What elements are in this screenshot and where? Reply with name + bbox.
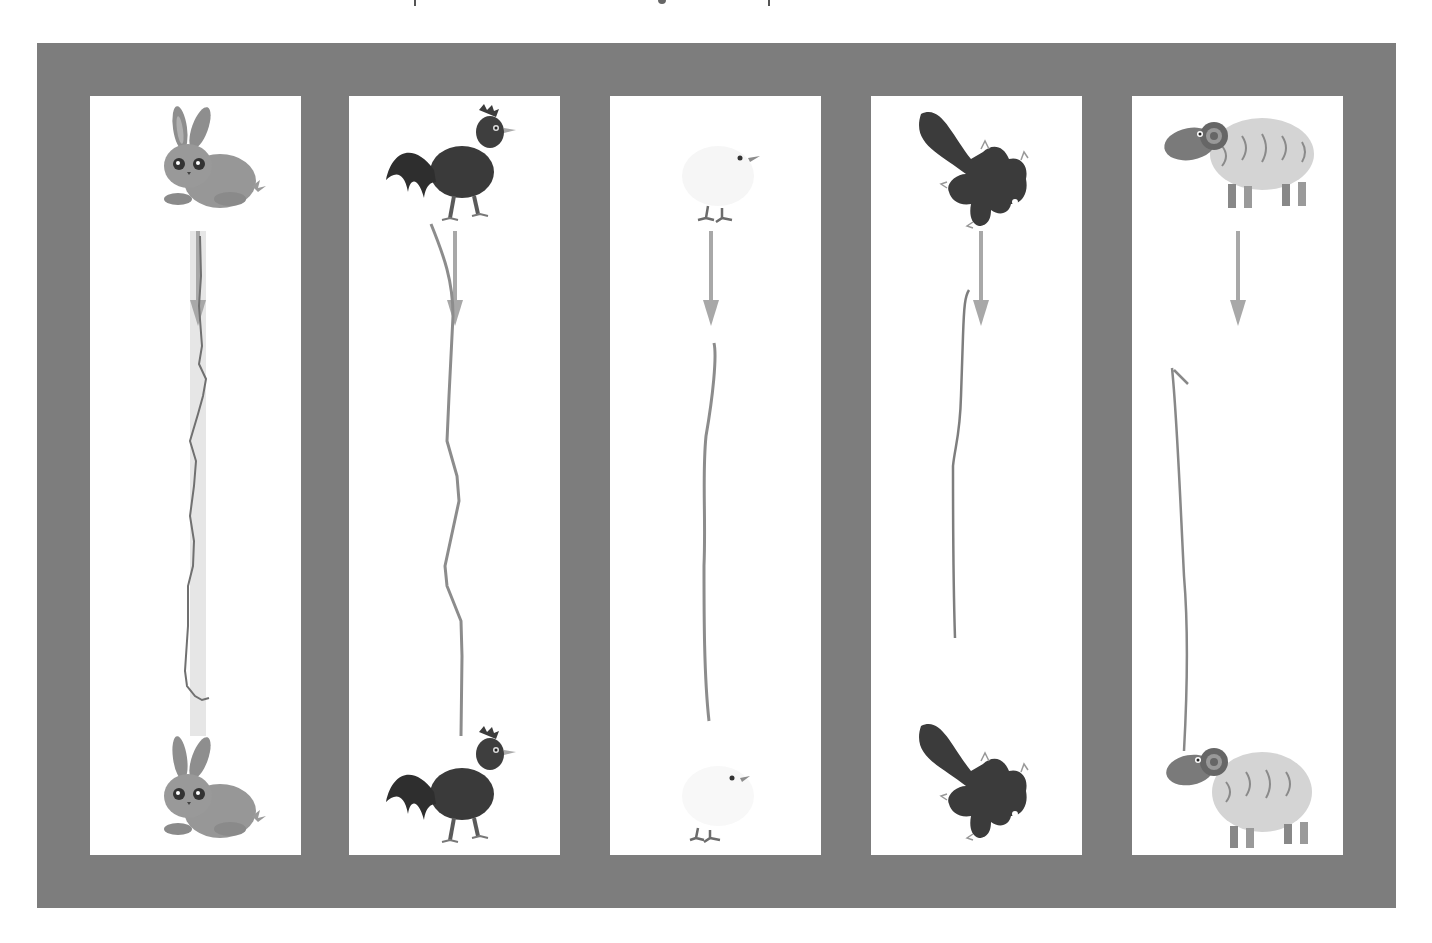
guide-arrowhead-icon [973, 300, 989, 326]
rooster-icon [386, 726, 516, 842]
panel-squirrel [871, 96, 1082, 855]
rooster-icon [386, 104, 516, 220]
guide-arrowhead-icon [447, 300, 463, 326]
squirrel-silhouette-icon [919, 724, 1028, 840]
guide-arrowhead-icon [1230, 300, 1246, 326]
guide-arrowhead-icon [703, 300, 719, 326]
panel-rooster [349, 96, 560, 855]
cutoff-text-fragment [658, 0, 666, 4]
trace-line[interactable] [1172, 368, 1188, 751]
ram-sheep-icon [1162, 118, 1314, 208]
panel-rabbit [90, 96, 301, 855]
worksheet-frame [37, 43, 1396, 908]
trace-line[interactable] [953, 290, 969, 638]
panel-ram [1132, 96, 1343, 855]
chick-icon [682, 146, 760, 222]
rabbit-icon [164, 105, 266, 208]
trace-line[interactable] [704, 343, 715, 721]
cutoff-text-fragment [414, 0, 416, 6]
rabbit-icon [164, 735, 266, 838]
panel-chick [610, 96, 821, 855]
cutoff-text-fragment [768, 0, 770, 6]
squirrel-silhouette-icon [919, 112, 1028, 228]
ram-sheep-icon [1164, 748, 1312, 848]
chick-icon [682, 766, 754, 842]
